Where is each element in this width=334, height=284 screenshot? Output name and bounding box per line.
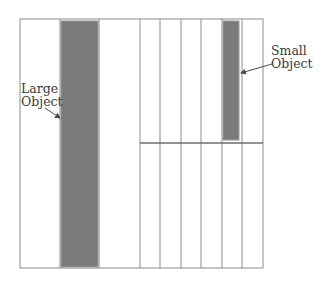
large-object-label-line2: Object: [21, 95, 63, 108]
small-object-arrow: [241, 64, 272, 73]
large-object-block: [61, 21, 98, 267]
large-object-arrow: [45, 108, 60, 118]
small-object-block: [223, 21, 239, 140]
small-object-label: Small Object: [271, 44, 313, 70]
small-object-label-line2: Object: [271, 57, 313, 70]
large-object-label: Large Object: [21, 82, 63, 108]
